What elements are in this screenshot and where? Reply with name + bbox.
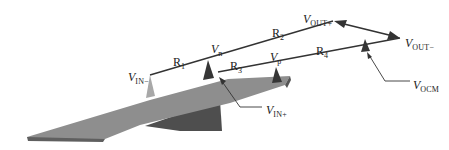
label-r1: R1	[173, 53, 185, 71]
lever-plate	[27, 76, 291, 142]
leader-v-ocm	[367, 52, 410, 81]
label-v-in-minus: VIN−	[128, 68, 149, 86]
label-r4: R4	[316, 42, 328, 60]
arrowhead-left-icon	[334, 20, 347, 28]
label-r3: R3	[230, 57, 242, 75]
label-v-ocm: VOCM	[413, 76, 439, 94]
label-v-in-plus: VIN+	[266, 101, 287, 119]
label-v-out-plus: VOUT+	[303, 10, 332, 28]
output-double-arrow	[334, 20, 400, 40]
spike-v-p	[272, 67, 282, 83]
label-v-out-minus: VOUT−	[405, 34, 434, 52]
spike-v-n	[203, 60, 214, 80]
label-v-p: Vp	[270, 48, 282, 66]
label-v-n: Vn	[211, 40, 223, 58]
seesaw-resistor-diagram	[0, 0, 449, 150]
wire-r3-r4	[218, 38, 400, 72]
plate-top-face	[27, 76, 290, 141]
label-r2: R2	[272, 24, 284, 42]
